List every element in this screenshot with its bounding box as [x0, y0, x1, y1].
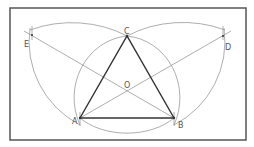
point-B: [173, 117, 175, 119]
equilateral-triangle: [80, 36, 174, 118]
point-A: [79, 117, 81, 119]
arc-right: [174, 28, 225, 125]
arc-bottom: [80, 118, 174, 133]
label-B: B: [178, 121, 184, 130]
label-O: O: [124, 81, 130, 90]
arc-left: [29, 28, 80, 125]
point-D: [222, 35, 224, 37]
label-E: E: [24, 40, 29, 49]
label-A: A: [72, 117, 78, 126]
arc-top-right: [127, 22, 225, 36]
diagram-canvas: A B C D E O: [0, 0, 254, 147]
label-C: C: [124, 27, 130, 36]
arc-top-left: [30, 23, 127, 36]
label-D: D: [225, 43, 231, 52]
point-E: [31, 34, 33, 36]
